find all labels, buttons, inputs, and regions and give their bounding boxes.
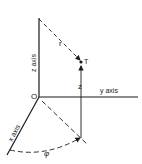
x-axis-line xyxy=(7,97,39,155)
radius-label: r xyxy=(59,39,62,48)
coordinate-diagram: z axis y axis x axis O r T z φ xyxy=(0,0,142,164)
y-axis-label: y axis xyxy=(100,87,118,95)
height-label: z xyxy=(78,82,82,91)
point-t-dot xyxy=(79,60,82,63)
angle-label: φ xyxy=(44,149,49,158)
z-axis-label: z axis xyxy=(30,54,37,72)
point-t-label: T xyxy=(84,58,89,65)
origin-label: O xyxy=(31,92,37,101)
